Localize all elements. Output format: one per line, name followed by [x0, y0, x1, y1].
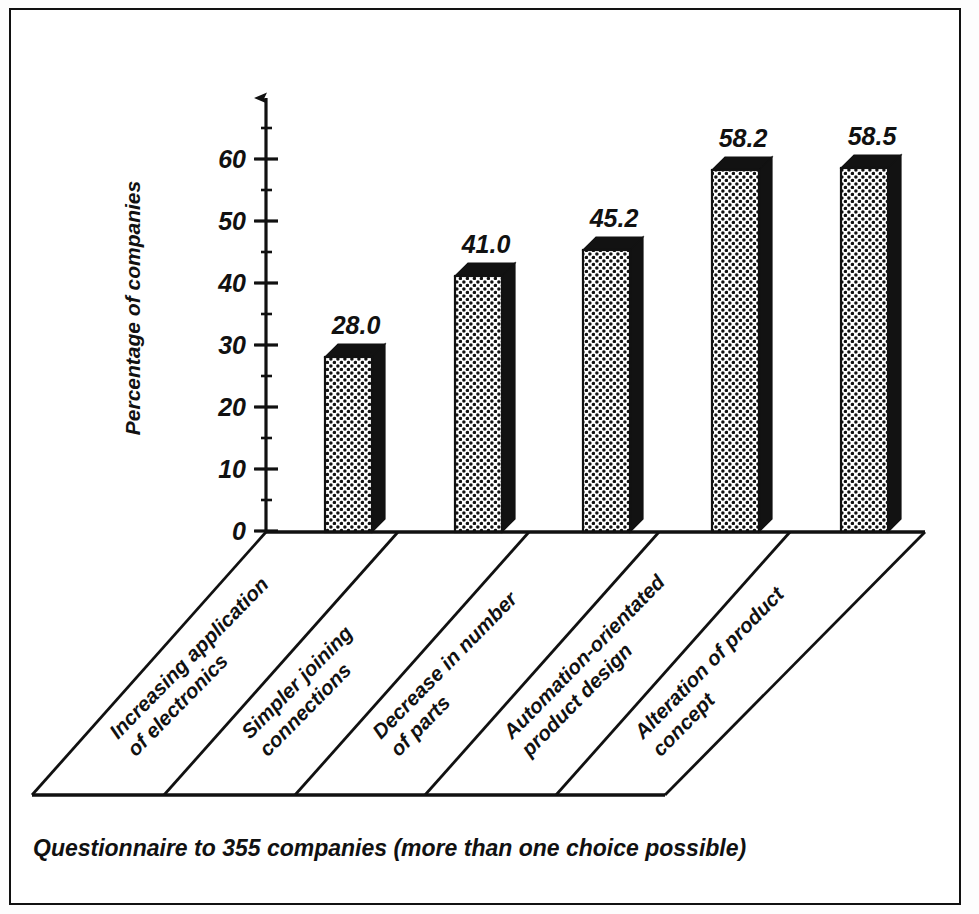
- bar-1-front-face: [325, 357, 372, 532]
- bar-2-front-face: [455, 276, 502, 532]
- bar-1-side-face: [372, 344, 385, 532]
- bar-3-value-label: 45.2: [589, 204, 639, 232]
- bar-1-value-label: 28.0: [331, 311, 381, 339]
- category-label-5-line-1: Alteration of product: [629, 581, 789, 743]
- bar-4-front-face: [712, 170, 759, 532]
- figure-root: 0 10 20 30 40 50 60 Percentage of compan…: [0, 0, 979, 914]
- category-labels-group: Increasing application of electronics Si…: [104, 570, 806, 761]
- y-axis-group: 0 10 20 30 40 50 60 Percentage of compan…: [121, 98, 278, 545]
- bar-2-value-label: 41.0: [461, 230, 511, 258]
- y-tick-label-60: 60: [218, 145, 246, 173]
- bar-3-front-face: [583, 250, 630, 532]
- plinth-left-diagonal: [32, 532, 266, 795]
- y-tick-label-10: 10: [218, 455, 246, 483]
- bar-5-side-face: [888, 155, 901, 532]
- bar-5-front-face: [841, 168, 888, 532]
- y-axis-title: Percentage of companies: [121, 181, 144, 435]
- y-tick-label-30: 30: [218, 331, 246, 359]
- bar-simpler-joining-connections[interactable]: 41.0: [455, 230, 515, 532]
- bar-decrease-in-number-of-parts[interactable]: 45.2: [583, 204, 643, 532]
- bar-increasing-application-of-electronics[interactable]: 28.0: [325, 311, 385, 532]
- figure-caption: Questionnaire to 355 companies (more tha…: [33, 835, 746, 861]
- bar-4-value-label: 58.2: [719, 124, 768, 152]
- y-tick-label-40: 40: [217, 269, 246, 297]
- bar-4-side-face: [759, 157, 772, 532]
- bar-alteration-of-product-concept[interactable]: 58.5: [841, 122, 901, 532]
- bar-2-side-face: [502, 263, 515, 532]
- y-tick-label-0: 0: [232, 517, 246, 545]
- bar-chart-graphic: 0 10 20 30 40 50 60 Percentage of compan…: [0, 0, 979, 914]
- y-tick-label-50: 50: [218, 207, 246, 235]
- y-tick-label-20: 20: [217, 393, 246, 421]
- bar-3-side-face: [630, 237, 643, 532]
- plinth-divider-1: [164, 532, 398, 795]
- bars-group: 28.0 41.0 45.2 58.2: [325, 122, 901, 532]
- category-label-3-line-1: Decrease in number: [367, 586, 521, 743]
- bar-automation-orientated-product-design[interactable]: 58.2: [712, 124, 772, 532]
- category-label-5[interactable]: Alteration of product concept: [629, 581, 807, 761]
- bar-5-value-label: 58.5: [848, 122, 898, 150]
